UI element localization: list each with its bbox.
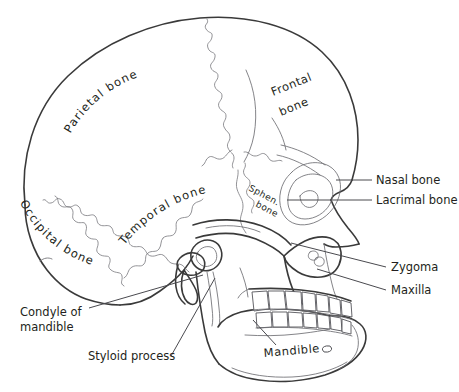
label-frontal-bone-line1: Frontal [269,70,314,99]
label-condyle-of-mandible-line1: Condyle of [20,305,82,319]
label-condyle-of-mandible-line2: mandible [20,320,74,334]
label-parietal-bone: Parietal bone [61,66,140,135]
label-occipital-bone: Occipital bone [17,197,96,268]
label-nasal-bone: Nasal bone [376,173,440,187]
label-temporal-bone: Temporal bone [115,182,208,248]
label-mandible: Mandible [263,341,320,360]
skull-anatomy-figure: Parietal bone Occipital bone Temporal bo… [0,0,459,392]
label-zygoma: Zygoma [391,260,438,274]
labels-layer: Parietal bone Occipital bone Temporal bo… [0,0,459,392]
label-lacrimal-bone: Lacrimal bone [376,193,458,207]
label-maxilla: Maxilla [391,283,431,297]
label-frontal-bone-line2: bone [277,94,311,118]
label-styloid-process: Styloid process [88,349,175,363]
